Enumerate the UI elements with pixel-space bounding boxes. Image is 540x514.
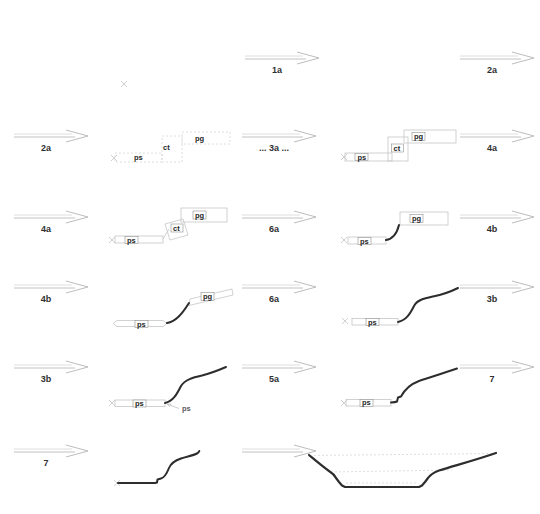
ps-label: ps <box>368 318 377 327</box>
stage-blank <box>105 50 240 114</box>
plate-cross-section <box>306 438 501 502</box>
stage-blank-svg <box>105 50 240 110</box>
arrow-step-2a-right: 2a <box>458 50 540 75</box>
right-arrow-icon <box>240 128 322 143</box>
arrow-label: 4b <box>5 294 87 304</box>
ps-label: ps <box>360 237 369 246</box>
pg-label: pg <box>195 134 205 143</box>
stage-step-tilted: ps ct pg <box>105 198 240 270</box>
stage-curve-joint-svg: ps pg <box>336 198 471 266</box>
stage-shell-curve-svg: ps pg <box>105 278 240 346</box>
stage-step-rim: ps <box>336 358 471 432</box>
arrow-step-3b-left: 3b <box>12 359 94 384</box>
arrow-step-5a: 5a <box>240 359 322 384</box>
arrow-label: 3b <box>5 374 87 384</box>
right-arrow-icon <box>12 359 94 374</box>
arrow-label: 6a <box>233 294 315 304</box>
stage-setup-solid-svg: ps ct pg <box>336 120 471 190</box>
right-arrow-icon <box>12 443 94 458</box>
ct-label: ct <box>163 143 170 152</box>
arrow-label: 7 <box>5 458 87 468</box>
right-arrow-icon <box>12 128 94 143</box>
arrow-step-4b-left: 4b <box>12 279 94 304</box>
axis-x-marker <box>342 318 348 324</box>
ps-label: ps <box>362 398 371 407</box>
stage-shell-curve: ps pg <box>105 278 240 350</box>
right-arrow-icon <box>12 279 94 294</box>
stage-final-profile-svg <box>105 438 240 508</box>
arrow-step-2a-left: 2a <box>12 128 94 153</box>
right-arrow-icon <box>240 359 322 374</box>
plate-outline <box>309 453 496 487</box>
ps-pointer-label: ps <box>182 404 191 413</box>
ct-label: ct <box>394 144 401 153</box>
arrow-step-7-left: 7 <box>12 443 94 468</box>
profile-curve <box>398 288 458 322</box>
profile-curve <box>118 451 199 483</box>
arrow-label: 2a <box>451 65 533 75</box>
stage-curve-joint: ps pg <box>336 198 471 270</box>
stage-annotated-svg: ps ps <box>105 358 240 428</box>
right-arrow-icon <box>458 50 540 65</box>
stage-setup-solid: ps ct pg <box>336 120 471 194</box>
stage-setup-dashed-svg: ps ct pg <box>105 120 240 190</box>
arrow-step-4a-left: 4a <box>12 209 94 234</box>
arrow-label: 5a <box>233 374 315 384</box>
arrow-label: ... 3a ... <box>233 143 315 153</box>
arrow-step-6a-mid2: 6a <box>240 279 322 304</box>
stage-rim-curve-svg: ps <box>336 278 471 346</box>
figure-canvas: 1a 2a 2a ... 3a ... 4a <box>0 0 540 514</box>
profile-curve <box>386 225 399 240</box>
arrow-label: 6a <box>233 224 315 234</box>
ps-label: ps <box>134 153 143 162</box>
arrow-label: 2a <box>5 143 87 153</box>
right-arrow-icon <box>12 209 94 224</box>
arrow-label: 4a <box>5 224 87 234</box>
profile-curve <box>165 367 226 403</box>
pg-label: pg <box>203 292 213 301</box>
pg-label: pg <box>414 132 424 141</box>
axis-x-marker <box>341 154 347 160</box>
axis-x-marker <box>121 81 127 87</box>
pg-label: pg <box>195 211 205 220</box>
profile-curve <box>167 303 189 323</box>
ps-pointer: ps <box>167 404 191 413</box>
axis-x-marker <box>109 237 115 243</box>
ps-label: ps <box>127 236 136 245</box>
plate-cross-section-svg <box>306 438 501 498</box>
mold-outline <box>115 132 230 162</box>
arrow-label: 1a <box>236 65 318 75</box>
stage-step-tilted-svg: ps ct pg <box>105 198 240 266</box>
ct-label: ct <box>173 224 180 233</box>
ps-label: ps <box>137 320 146 329</box>
stage-annotated: ps ps <box>105 358 240 432</box>
arrow-step-6a-mid1: 6a <box>240 209 322 234</box>
ps-label: ps <box>358 153 367 162</box>
right-arrow-icon <box>240 279 322 294</box>
stage-step-rim-svg: ps <box>336 358 471 428</box>
axis-x-marker <box>111 155 117 161</box>
arrow-step-1a: 1a <box>243 50 325 75</box>
stage-rim-curve: ps <box>336 278 471 350</box>
right-arrow-icon <box>243 50 325 65</box>
arrow-step-3a: ... 3a ... <box>240 128 322 153</box>
pg-label: pg <box>412 214 422 223</box>
right-arrow-icon <box>240 209 322 224</box>
stage-final-profile <box>105 438 240 512</box>
axis-x-marker <box>109 400 115 406</box>
profile-curve <box>391 369 457 403</box>
stage-setup-dashed: ps ct pg <box>105 120 240 194</box>
axis-x-marker <box>341 237 347 243</box>
ps-label: ps <box>135 399 144 408</box>
